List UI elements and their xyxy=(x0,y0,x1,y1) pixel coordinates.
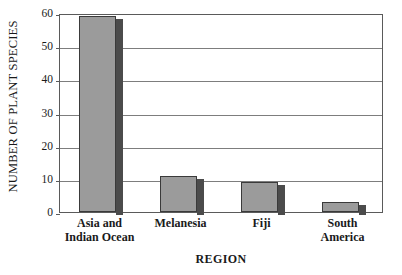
bar xyxy=(79,16,116,212)
y-axis-tick-label: 40 xyxy=(42,75,54,87)
bar-shadow xyxy=(197,179,204,215)
x-axis-tick-label-line: Fiji xyxy=(221,216,302,230)
plot-area xyxy=(59,14,383,213)
bar xyxy=(241,182,278,212)
x-axis-title: REGION xyxy=(59,252,383,267)
bar-slot xyxy=(303,13,384,212)
bar-shadow xyxy=(278,185,285,215)
y-axis-tick-label: 30 xyxy=(42,108,54,120)
bar-shadow xyxy=(116,19,123,215)
bar-face xyxy=(160,176,197,212)
x-axis-tick-label-line: South xyxy=(302,216,383,230)
y-axis-tick-label: 50 xyxy=(42,41,54,53)
bar-face xyxy=(79,16,116,212)
x-axis-tick-label: Fiji xyxy=(221,216,302,230)
bar-slot xyxy=(222,13,303,212)
y-axis-tick-labels: 0102030405060 xyxy=(28,14,56,213)
y-axis-tick-label: 0 xyxy=(47,207,53,219)
x-axis-tick-label-line: America xyxy=(302,230,383,244)
bar xyxy=(322,202,359,212)
x-axis-tick-label: SouthAmerica xyxy=(302,216,383,244)
bar-face xyxy=(241,182,278,212)
x-axis-tick-label-line: Melanesia xyxy=(140,216,221,230)
bar xyxy=(160,176,197,212)
y-axis-tick-mark xyxy=(56,214,60,215)
x-axis-tick-label-line: Asia and xyxy=(59,216,140,230)
bar-slot xyxy=(141,13,222,212)
x-axis-tick-label: Asia andIndian Ocean xyxy=(59,216,140,244)
bar-slot xyxy=(60,13,141,212)
y-axis-tick-label: 20 xyxy=(42,141,54,153)
bar-shadow xyxy=(359,205,366,215)
bar-face xyxy=(322,202,359,212)
x-axis-tick-label-line: Indian Ocean xyxy=(59,230,140,244)
bar-chart-figure: NUMBER OF PLANT SPECIES 0102030405060 As… xyxy=(0,0,402,275)
x-axis-tick-label: Melanesia xyxy=(140,216,221,230)
y-axis-tick-label: 60 xyxy=(42,8,54,20)
y-axis-title: NUMBER OF PLANT SPECIES xyxy=(2,0,24,213)
y-axis-tick-label: 10 xyxy=(42,174,54,186)
